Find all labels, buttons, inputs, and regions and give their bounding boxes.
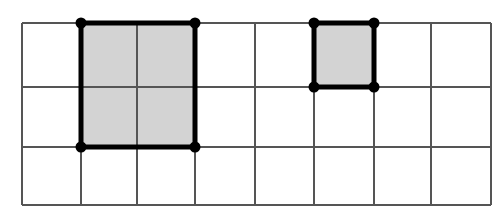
large-rectangle-vertex-dot — [76, 18, 87, 29]
small-square-fill — [314, 23, 374, 87]
grid-diagram — [0, 0, 504, 222]
small-square-vertex-dot — [309, 18, 320, 29]
large-rectangle-vertex-dot — [190, 18, 201, 29]
small-square-vertex-dot — [309, 82, 320, 93]
small-square-vertex-dot — [369, 18, 380, 29]
small-square-vertex-dot — [369, 82, 380, 93]
large-rectangle-vertex-dot — [76, 142, 87, 153]
large-rectangle-vertex-dot — [190, 142, 201, 153]
